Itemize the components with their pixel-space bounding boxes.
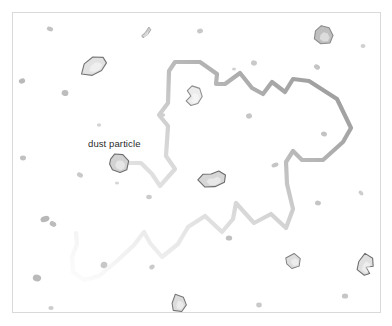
- dust-fragment: [61, 89, 69, 97]
- dust-fragment: [246, 113, 253, 119]
- dust-particle-label: dust particle: [88, 138, 141, 149]
- dust-fragment: [76, 171, 84, 178]
- dust-particle-bottom-center: [170, 294, 188, 313]
- dust-fragment: [315, 200, 322, 206]
- dust-particle-center-pair: [197, 170, 227, 189]
- dust-particles-layer: [77, 25, 376, 313]
- dust-fragment: [320, 131, 327, 137]
- dust-fragment: [251, 60, 258, 66]
- dust-particle-lower-right: [284, 252, 302, 269]
- dust-fragment: [271, 162, 279, 169]
- dust-fragment: [361, 44, 366, 48]
- dust-fragment: [97, 123, 101, 127]
- dust-fragment: [146, 195, 152, 199]
- dust-fragment: [40, 215, 51, 224]
- dust-particle-upper-left: [77, 53, 109, 79]
- dust-fragment: [342, 293, 348, 298]
- dust-fragment: [232, 67, 236, 70]
- scene-canvas: [0, 0, 392, 326]
- dust-fragment: [256, 303, 262, 308]
- dust-particle-sliver-top: [141, 27, 152, 39]
- dust-fragment: [226, 235, 232, 240]
- dust-fragment: [46, 26, 54, 32]
- dust-particle-right-edge: [354, 253, 376, 278]
- dust-particle-inner-loop: [183, 85, 204, 108]
- dust-fragment: [148, 264, 155, 271]
- small-fragments-layer: [18, 26, 365, 310]
- dust-particle-top-right: [314, 25, 334, 45]
- dust-particle-tracked: [108, 152, 129, 173]
- dust-fragment: [18, 77, 26, 84]
- dust-fragment: [313, 63, 321, 71]
- dust-fragment: [115, 181, 119, 184]
- dust-fragment: [32, 274, 42, 283]
- dust-fragment: [49, 220, 57, 228]
- dust-fragment: [48, 306, 53, 310]
- brownian-trajectory-path: [72, 62, 351, 280]
- dust-fragment: [196, 28, 203, 34]
- dust-fragment: [358, 190, 365, 196]
- dust-particle-body: [141, 27, 152, 39]
- dust-fragment: [20, 156, 26, 161]
- brownian-motion-figure: dust particle: [0, 0, 392, 326]
